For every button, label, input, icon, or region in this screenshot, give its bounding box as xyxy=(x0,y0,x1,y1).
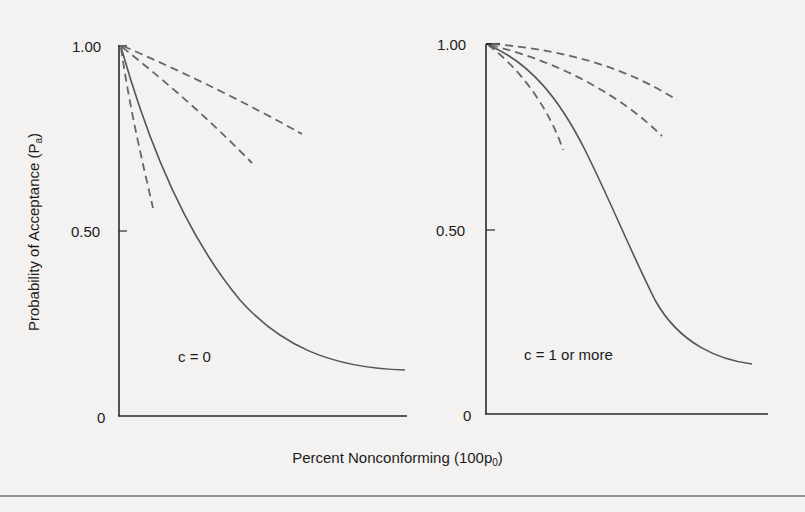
right-ytick-100: 1.00 xyxy=(437,37,466,52)
left-dashed-curve-3 xyxy=(123,46,302,134)
right-solid-curve xyxy=(488,45,752,364)
x-axis-label: Percent Nonconforming (100p0) xyxy=(0,450,805,465)
left-annotation-c0: c = 0 xyxy=(178,349,211,364)
left-panel xyxy=(118,45,407,416)
right-annotation-c1: c = 1 or more xyxy=(524,347,613,362)
right-ytick-050: 0.50 xyxy=(436,223,465,238)
right-dashed-curve-1 xyxy=(488,45,563,150)
left-dashed-curve-1 xyxy=(121,48,153,208)
left-dashed-curve-2 xyxy=(122,47,252,163)
right-dashed-curve-2 xyxy=(490,45,662,136)
left-ytick-100: 1.00 xyxy=(72,39,101,54)
left-solid-curve xyxy=(121,47,405,370)
left-ytick-050: 0.50 xyxy=(71,224,100,239)
right-ytick-0: 0 xyxy=(463,408,471,423)
plot-canvas xyxy=(0,0,805,512)
right-dashed-curve-3 xyxy=(492,44,677,100)
left-ytick-0: 0 xyxy=(97,410,105,425)
oc-curves-figure: 1.00 0.50 0 1.00 0.50 0 c = 0 c = 1 or m… xyxy=(0,0,805,512)
y-axis-label: Probability of Acceptance (Pa) xyxy=(26,133,41,331)
